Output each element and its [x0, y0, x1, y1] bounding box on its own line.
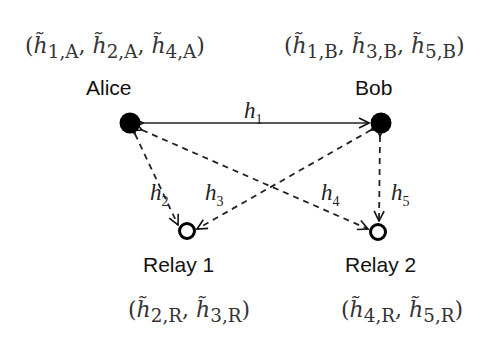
estimates-relay1: (h̃2,R, h̃3,R) [128, 297, 250, 326]
node-alice [120, 113, 141, 134]
edge-h5 [379, 136, 380, 221]
edge-label-h3: h3 [205, 180, 224, 210]
label-relay2: Relay 2 [345, 253, 416, 277]
estimates-bob: (h̃1,B, h̃3,B, h̃5,B) [284, 33, 465, 62]
estimates-alice: (h̃1,A, h̃2,A, h̃4,A) [25, 33, 205, 62]
node-relay1 [180, 224, 195, 239]
edge-label-h2: h2 [150, 180, 169, 210]
edge-label-h4: h4 [321, 180, 340, 210]
node-relay2 [371, 225, 386, 240]
label-alice: Alice [86, 76, 132, 100]
estimates-relay2: (h̃4,R, h̃5,R) [341, 297, 463, 326]
edge-label-h1: h1 [244, 98, 263, 128]
node-bob [371, 113, 392, 134]
label-relay1: Relay 1 [143, 253, 214, 277]
edge-label-h5: h5 [391, 180, 410, 210]
label-bob: Bob [355, 76, 392, 100]
